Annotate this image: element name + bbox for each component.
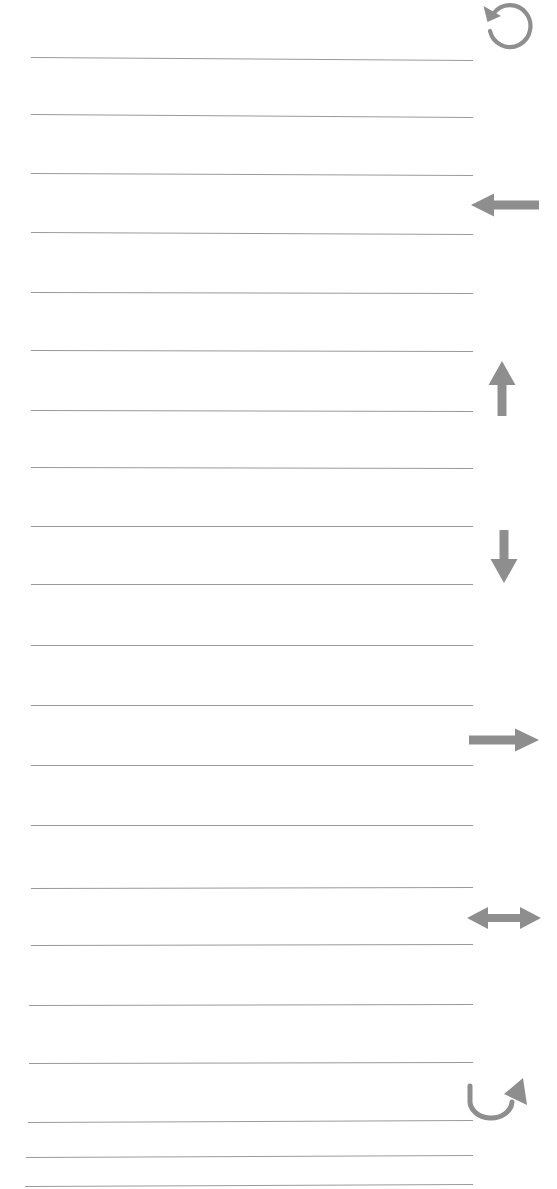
ruled-line (31, 765, 473, 766)
ruled-line (31, 350, 473, 352)
arrow-left-right-icon[interactable] (466, 902, 542, 934)
arrow-left-icon[interactable] (470, 190, 540, 220)
ruled-line (31, 645, 473, 646)
arrow-up-icon[interactable] (486, 360, 518, 416)
ruled-line (31, 526, 473, 527)
notebook-page (0, 0, 557, 1189)
ruled-line (25, 1184, 473, 1187)
ruled-line (31, 944, 473, 946)
ruled-line (31, 114, 473, 118)
ruled-line (31, 887, 473, 889)
ruled-line (28, 1120, 473, 1123)
arrow-right-icon[interactable] (468, 725, 540, 755)
rotate-counterclockwise-icon[interactable] (481, 0, 539, 52)
ruled-line (31, 584, 473, 585)
ruled-line (31, 57, 473, 61)
ruled-line (31, 825, 473, 826)
arrow-u-turn-up-icon[interactable] (466, 1074, 532, 1124)
ruled-line (31, 467, 473, 469)
ruled-line (31, 410, 473, 412)
ruled-line (29, 1062, 473, 1064)
ruled-line (31, 173, 473, 176)
ruled-line (31, 705, 473, 706)
ruled-line (29, 1004, 473, 1006)
arrow-down-icon[interactable] (488, 530, 520, 584)
ruled-line (26, 1155, 473, 1158)
ruled-line (31, 292, 473, 294)
ruled-line (31, 232, 473, 235)
